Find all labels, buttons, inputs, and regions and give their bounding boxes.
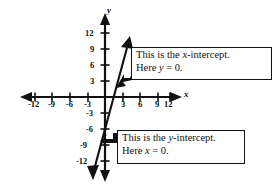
callout-y-intercept: This is the y-intercept. Here x = 0. xyxy=(117,130,245,164)
callout-y-line2: Here x = 0. xyxy=(122,145,241,158)
y-axis-label: y xyxy=(107,6,111,15)
callout-x-line2: Here y = 0. xyxy=(136,62,268,75)
y-tick-label-6: 6 xyxy=(90,61,94,70)
y-tick-label--6: -6 xyxy=(86,125,93,134)
x-tick-label-12: 12 xyxy=(164,100,173,109)
x-tick-label--9: -9 xyxy=(48,100,55,109)
figure-canvas: -12 -9 -6 -3 3 6 9 12 12 9 6 3 -3 -6 -9 … xyxy=(0,0,275,192)
y-tick-label--12: -12 xyxy=(76,157,87,166)
line-lower-arrowhead xyxy=(87,165,99,180)
callout-x-line1: This is the x-intercept. xyxy=(136,49,268,62)
y-tick-label--3: -3 xyxy=(86,109,93,118)
x-axis-label: x xyxy=(184,90,189,99)
y-axis-bottom-arrowhead xyxy=(100,170,110,182)
x-tick-label-9: 9 xyxy=(155,100,159,109)
x-tick-label--6: -6 xyxy=(66,100,73,109)
y-tick-label-3: 3 xyxy=(90,77,94,86)
x-tick-label--12: -12 xyxy=(28,100,39,109)
y-tick-label-12: 12 xyxy=(85,29,94,38)
callout-y-line1: This is the y-intercept. xyxy=(122,132,241,145)
x-tick-label-3: 3 xyxy=(121,100,125,109)
y-tick-label--9: -9 xyxy=(80,141,87,150)
callout-x-intercept: This is the x-intercept. Here y = 0. xyxy=(131,47,272,80)
y-tick-label-9: 9 xyxy=(90,45,94,54)
x-tick-label-6: 6 xyxy=(138,100,142,109)
